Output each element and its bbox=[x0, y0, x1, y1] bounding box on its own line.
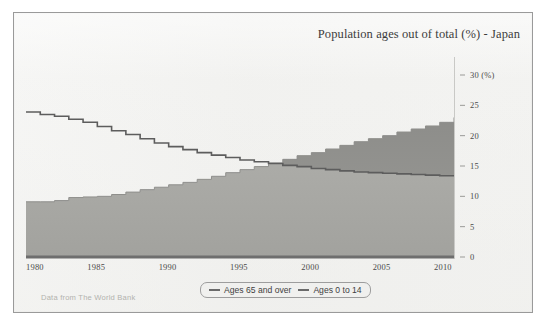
legend-item-label: Ages 0 to 14 bbox=[313, 285, 361, 295]
y-tick-label: 5 bbox=[470, 222, 474, 232]
x-tick-label: 1980 bbox=[26, 262, 44, 272]
legend-swatch-icon bbox=[298, 289, 309, 291]
x-tick-label: 1985 bbox=[87, 262, 105, 272]
chart-legend[interactable]: Ages 65 and over Ages 0 to 14 bbox=[200, 282, 371, 298]
chart-frame: Population ages out of total (%) - Japan bbox=[13, 12, 533, 313]
x-tick-label: 1995 bbox=[230, 262, 248, 272]
x-tick-label: 2000 bbox=[301, 262, 319, 272]
legend-swatch-icon bbox=[209, 289, 220, 291]
legend-item-label: Ages 65 and over bbox=[224, 285, 291, 295]
series-layer bbox=[26, 112, 454, 257]
y-tick-label: 25 bbox=[470, 100, 479, 110]
plot-area: 051015202530 (%) 19801985199019952000200… bbox=[26, 51, 508, 266]
y-tick-label: 15 bbox=[470, 161, 479, 171]
y-tick-marks bbox=[460, 75, 465, 257]
y-tick-label: 20 bbox=[470, 131, 479, 141]
screenshot-root: Population ages out of total (%) - Japan bbox=[0, 0, 546, 323]
legend-item-ages-65-and-over[interactable]: Ages 65 and over bbox=[209, 285, 291, 295]
y-axis-divider bbox=[454, 57, 455, 259]
legend-item-ages-0-to-14[interactable]: Ages 0 to 14 bbox=[298, 285, 361, 295]
source-attribution: Data from The World Bank bbox=[41, 293, 135, 302]
y-tick-label: 0 bbox=[470, 252, 474, 262]
chart-title: Population ages out of total (%) - Japan bbox=[318, 27, 520, 42]
y-tick-label: 30 (%) bbox=[470, 70, 495, 80]
y-tick-label: 10 bbox=[470, 191, 479, 201]
chart-plot-svg bbox=[26, 51, 508, 266]
x-tick-label: 2010 bbox=[434, 262, 452, 272]
x-tick-label: 2005 bbox=[373, 262, 391, 272]
x-tick-label: 1990 bbox=[159, 262, 177, 272]
